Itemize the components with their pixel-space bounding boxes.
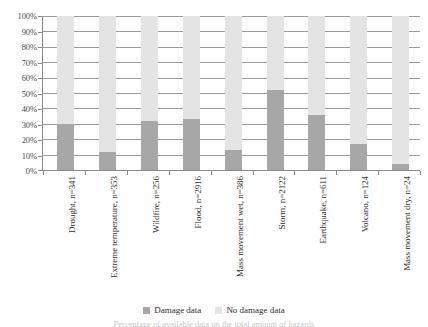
x-axis-category-label-drought: Drought, n=341 [68,176,77,233]
bar-segment-damage[interactable] [267,90,284,170]
y-axis-tick-label: 60% [3,74,37,83]
plot-area [43,16,420,170]
chart-figure: 100% 90% 80% 70% 60% 50% 40% 30% 20% 10%… [0,0,428,327]
legend-label-damage-data: Damage data [154,306,201,315]
bar-segment-damage[interactable] [308,115,325,170]
x-axis-category-label-flood: Flood, n=2916 [194,176,203,228]
legend-label-no-damage-data: No damage data [226,306,284,315]
bar-segment-no-damage[interactable] [99,16,116,170]
legend-entry-no-damage-data[interactable]: No damage data [215,306,284,315]
bar-segment-damage[interactable] [183,119,200,170]
x-axis-category-label-mass-movement-dry: Mass movement dry, n=24 [403,176,412,271]
y-axis-tick-label: 70% [3,59,37,68]
y-axis-tick-label: 40% [3,105,37,114]
x-axis-category-labels: Drought, n=341 Extreme temperature, n=35… [0,172,428,292]
x-axis-category-label-volcano: Volcano, n=124 [361,176,370,232]
bar-segment-damage[interactable] [99,152,116,171]
y-axis-tick-label: 10% [3,152,37,161]
legend-swatch-damage-data [143,307,150,314]
x-axis-line [42,170,420,171]
legend-swatch-no-damage-data [215,307,222,314]
y-axis-labels: 100% 90% 80% 70% 60% 50% 40% 30% 20% 10%… [0,16,37,171]
bar-segment-damage[interactable] [141,121,158,170]
x-axis-category-label-extreme-temperature: Extreme temperature, n=353 [110,176,119,278]
y-axis-tick-label: 100% [3,12,37,21]
y-axis-tick-label: 30% [3,121,37,130]
y-axis-tick-label: 80% [3,43,37,52]
figure-caption: Percentage of available data on the tota… [0,319,428,327]
x-axis-category-label-storm: Storm, n=2122 [278,176,287,229]
bar-segment-damage[interactable] [350,144,367,170]
y-axis-tick-label: 90% [3,28,37,37]
y-axis-tick-label: 50% [3,90,37,99]
x-axis-category-label-earthquake: Earthquake, n=611 [319,176,328,243]
bar-segment-no-damage[interactable] [225,16,242,170]
bar-segment-no-damage[interactable] [392,16,409,170]
y-axis-tick-label: 20% [3,136,37,145]
bar-segment-damage[interactable] [225,150,242,170]
legend-entry-damage-data[interactable]: Damage data [143,306,201,315]
chart-legend: Damage data No damage data [0,303,428,317]
bar-segment-damage[interactable] [57,124,74,170]
x-axis-category-label-mass-movement-wet: Mass movement wet, n=386 [236,176,245,277]
x-axis-category-label-wildfire: Wildfire, n=256 [152,176,161,233]
